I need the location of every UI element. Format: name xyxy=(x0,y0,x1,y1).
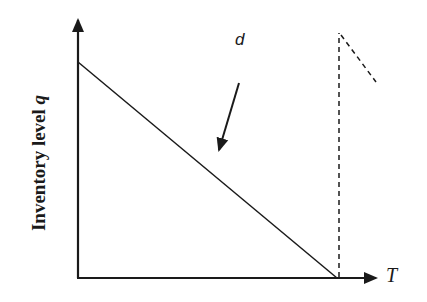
diagram-graphics xyxy=(0,0,427,302)
y-axis-label-text: Inventory level xyxy=(28,109,49,231)
next-cycle-line xyxy=(341,35,376,82)
y-axis-variable: q xyxy=(28,95,49,105)
x-axis-label: T xyxy=(386,264,397,287)
y-axis-label: Inventory level q xyxy=(28,68,50,258)
inventory-diagram: Inventory level q d T xyxy=(0,0,427,302)
depletion-line xyxy=(78,62,337,278)
demand-rate-arrow xyxy=(219,83,239,150)
rate-label: d xyxy=(235,30,244,50)
